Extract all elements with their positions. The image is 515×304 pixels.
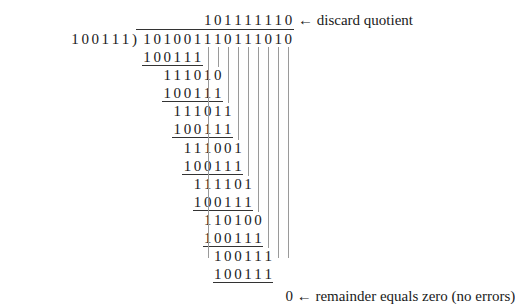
digit: 1 [213, 158, 223, 174]
bring-down-line [238, 47, 239, 140]
digit: 1 [223, 12, 233, 28]
subtrahend-row: 100111 [162, 85, 223, 102]
digit: 1 [192, 103, 202, 119]
remainder-row: 111011 [172, 103, 233, 119]
digit: 1 [100, 31, 110, 47]
remainder: 0 ← remainder equals zero (no errors) [285, 288, 515, 304]
digit: 0 [223, 266, 233, 282]
digit: 0 [263, 31, 273, 47]
bring-down-line [258, 47, 259, 212]
digit: 1 [162, 31, 172, 47]
subtrahend-row: 100111 [172, 121, 233, 138]
digit: 1 [223, 103, 233, 119]
digit: 1 [192, 140, 202, 156]
digit: 1 [263, 12, 273, 28]
digit: 1 [233, 194, 243, 210]
digit: 1 [193, 176, 203, 192]
digit: 1 [172, 67, 182, 83]
digit: 1 [233, 212, 243, 228]
bring-down-line [228, 47, 229, 103]
bring-down-line [248, 47, 249, 176]
digit: 0 [223, 230, 233, 246]
digit: 0 [243, 212, 253, 228]
digit: 1 [253, 31, 263, 47]
digit: 1 [182, 158, 192, 174]
digit: 0 [182, 121, 192, 137]
digit: 0 [192, 158, 202, 174]
digit: 1 [273, 12, 283, 28]
remainder-row: 110100 [203, 212, 264, 228]
digit: 0 [223, 140, 233, 156]
digit: 1 [223, 121, 233, 137]
digit: 0 [283, 12, 293, 28]
digit: 1 [213, 248, 223, 264]
digit: 0 [233, 248, 243, 264]
divisor: 100111 [70, 31, 131, 47]
digit: 1 [273, 31, 283, 47]
digit: 1 [182, 103, 192, 119]
remainder-row: 111101 [193, 176, 254, 192]
digit: 0 [172, 85, 182, 101]
digit: 1 [213, 103, 223, 119]
digit: 1 [192, 49, 202, 65]
digit: 0 [213, 230, 223, 246]
digit: 1 [182, 49, 192, 65]
digit: 1 [223, 176, 233, 192]
remainder-row: 111010 [162, 67, 223, 83]
bring-down-line [218, 47, 219, 67]
digit: 1 [213, 121, 223, 137]
digit: 0 [172, 31, 182, 47]
digit: 1 [192, 85, 202, 101]
digit: 0 [223, 31, 233, 47]
digit: 1 [192, 31, 202, 47]
digit: 0 [233, 266, 243, 282]
digit: 1 [253, 230, 263, 246]
digit: 0 [152, 31, 162, 47]
digit: 1 [142, 31, 152, 47]
digit: 1 [223, 194, 233, 210]
digit: 0 [253, 212, 263, 228]
digit: 1 [142, 49, 152, 65]
digit: 1 [253, 248, 263, 264]
digit: 1 [233, 12, 243, 28]
digit: 1 [263, 266, 273, 282]
digit: 1 [263, 248, 273, 264]
digit: 1 [213, 31, 223, 47]
bring-down-line [208, 47, 209, 258]
digit: 1 [172, 103, 182, 119]
digit: 1 [203, 31, 213, 47]
digit: 1 [253, 12, 263, 28]
remainder-row: 111001 [182, 140, 243, 156]
digit: 1 [213, 85, 223, 101]
digit: 1 [233, 230, 243, 246]
digit: 0 [213, 140, 223, 156]
digit: 0 [80, 31, 90, 47]
digit: 1 [233, 158, 243, 174]
dividend: 101001110111010 [142, 31, 293, 47]
digit: 1 [243, 12, 253, 28]
digit: 1 [233, 31, 243, 47]
digit: 1 [162, 67, 172, 83]
digit: 1 [243, 176, 253, 192]
digit: 1 [223, 158, 233, 174]
subtrahend-row: 100111 [203, 230, 264, 247]
digit: 0 [162, 49, 172, 65]
digit: 1 [182, 140, 192, 156]
digit: 1 [110, 31, 120, 47]
digit: 1 [182, 67, 192, 83]
digit: 1 [243, 248, 253, 264]
digit: 1 [172, 121, 182, 137]
digit: 1 [213, 176, 223, 192]
subtrahend-row: 100111 [142, 49, 203, 66]
digit: 0 [182, 85, 192, 101]
subtrahend-row: 100111 [193, 194, 254, 211]
digit: 0 [283, 31, 293, 47]
division-bar [136, 29, 294, 30]
digit: 0 [152, 49, 162, 65]
quotient-note: ← discard quotient [298, 12, 413, 28]
digit: 1 [70, 31, 80, 47]
subtrahend-row: 100111 [213, 266, 274, 283]
division-bracket: ) [132, 31, 137, 47]
bring-down-line [268, 47, 269, 248]
digit: 0 [182, 31, 192, 47]
